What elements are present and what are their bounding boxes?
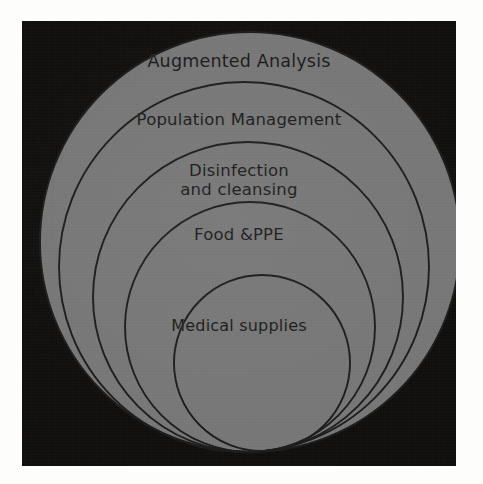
ring-label-food-and-ppe: Food &PPE	[22, 225, 456, 244]
figure-root: Augmented Analysis Population Management…	[0, 0, 483, 484]
ring-label-disinfection-and-cleansing: Disinfection and cleansing	[22, 161, 456, 200]
ring-label-augmented-analysis: Augmented Analysis	[22, 51, 456, 72]
ring-label-population-management: Population Management	[22, 110, 456, 129]
ring-label-layer: Augmented Analysis Population Management…	[22, 21, 456, 466]
diagram-panel: Augmented Analysis Population Management…	[22, 21, 456, 466]
ring-label-medical-supplies: Medical supplies	[22, 317, 456, 336]
